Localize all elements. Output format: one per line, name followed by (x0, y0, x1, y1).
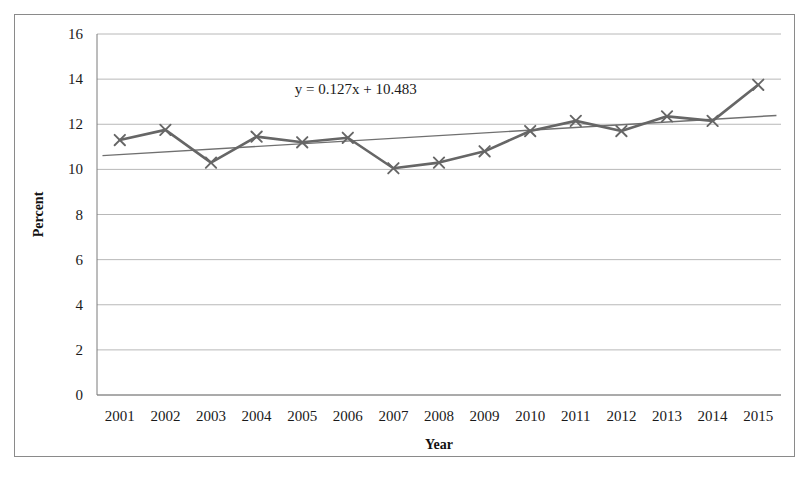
x-tick-label-2012: 2012 (606, 408, 636, 424)
x-tick-label-2004: 2004 (242, 408, 273, 424)
x-tick-label-2001: 2001 (105, 408, 135, 424)
y-tick-label-10: 10 (68, 161, 83, 177)
x-tick-label-2003: 2003 (196, 408, 226, 424)
y-axis-title: Percent (31, 191, 46, 237)
trendline (102, 115, 776, 155)
x-tick-label-2011: 2011 (561, 408, 590, 424)
x-tick-label-2002: 2002 (150, 408, 180, 424)
x-tick-label-2007: 2007 (378, 408, 409, 424)
y-tick-label-16: 16 (68, 26, 84, 42)
series-line-0 (120, 85, 758, 168)
x-tick-label-2015: 2015 (743, 408, 773, 424)
y-tick-label-2: 2 (76, 342, 84, 358)
x-tick-label-2009: 2009 (470, 408, 500, 424)
x-tick-label-2008: 2008 (424, 408, 454, 424)
x-tick-label-2006: 2006 (333, 408, 364, 424)
trendline-equation-label: y = 0.127x + 10.483 (295, 81, 417, 97)
x-tick-label-2013: 2013 (652, 408, 682, 424)
y-tick-label-14: 14 (68, 71, 84, 87)
y-tick-label-4: 4 (76, 297, 84, 313)
x-tick-label-2010: 2010 (515, 408, 545, 424)
x-tick-label-2005: 2005 (287, 408, 317, 424)
y-tick-label-8: 8 (76, 207, 84, 223)
y-tick-label-6: 6 (76, 252, 84, 268)
data-point-2015: 2015: 13.75 (753, 80, 763, 90)
chart-outer-frame: 0246810121416200120022003200420052006200… (14, 14, 795, 457)
line-chart: 0246810121416200120022003200420052006200… (15, 15, 794, 456)
y-tick-label-0: 0 (76, 387, 84, 403)
x-tick-label-2014: 2014 (698, 408, 729, 424)
y-tick-label-12: 12 (68, 116, 83, 132)
x-axis-title: Year (425, 437, 453, 452)
data-point-2003: 2003: 10.3 (206, 157, 216, 167)
